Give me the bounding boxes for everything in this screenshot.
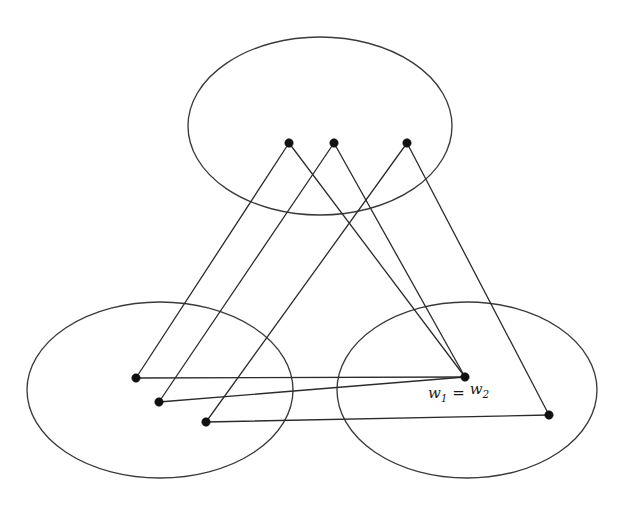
edge-u2-w2 — [334, 143, 465, 377]
vertex-dot-wr[interactable] — [545, 411, 553, 419]
vertex-dot-u1[interactable] — [285, 139, 293, 147]
edge-ur-wr — [407, 143, 549, 415]
compound-label-w1-eq-w2: w1 = w2 — [428, 380, 489, 404]
compound-part-0-0: w — [428, 384, 441, 402]
vertex-dot-w1w2[interactable] — [461, 373, 469, 381]
vertex-dot-v1[interactable] — [132, 374, 140, 382]
compound-part-0-3: w — [470, 380, 483, 398]
vertex-dot-u2[interactable] — [330, 139, 338, 147]
edge-v2-w2 — [159, 377, 465, 402]
tripartite-graph-svg: w1 = w2 — [0, 0, 639, 519]
vertex-dot-ur[interactable] — [403, 139, 411, 147]
set-ellipse-B — [27, 302, 293, 478]
set-ellipse-A — [188, 37, 452, 215]
edge-v1-w1 — [136, 377, 465, 378]
set-ellipses-group — [27, 37, 597, 478]
vertices-group — [132, 139, 553, 426]
edge-vr-wr — [206, 415, 549, 422]
edges-group — [136, 143, 549, 422]
vertex-dot-v2[interactable] — [155, 398, 163, 406]
labels-group: w1 = w2 — [0, 0, 489, 404]
compound-part-0-1: 1 — [441, 392, 448, 404]
figure-canvas: w1 = w2 — [0, 0, 639, 519]
edge-u1-w1 — [289, 143, 465, 377]
compound-part-0-4: 2 — [481, 388, 489, 400]
compound-part-0-2: = — [448, 384, 470, 402]
edge-u2-v2 — [159, 143, 334, 402]
vertex-dot-vr[interactable] — [202, 418, 210, 426]
